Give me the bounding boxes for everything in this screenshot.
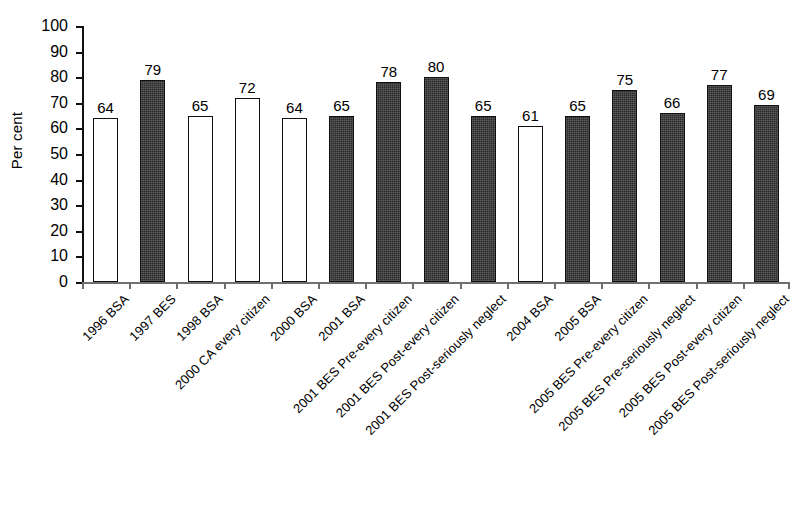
y-axis-tick-label: 0: [59, 274, 68, 290]
bar-value-label: 77: [711, 67, 728, 82]
x-axis-tick: [788, 283, 790, 289]
y-axis-tick: 90: [76, 52, 82, 54]
bar-value-label: 65: [475, 98, 492, 113]
plot-area: 1009080706050403020100 64796572646578806…: [82, 26, 790, 282]
y-axis-tick-label: 40: [50, 172, 68, 188]
x-axis-label: 2000 CA every citizen: [173, 292, 273, 392]
y-axis-tick-label: 100: [41, 18, 68, 34]
x-axis-tick: [412, 283, 414, 289]
x-axis-label: 2000 BSA: [268, 292, 320, 344]
y-axis-tick-label: 80: [50, 69, 68, 85]
bar-value-label: 75: [616, 72, 633, 87]
bar-value-label: 78: [380, 64, 397, 79]
y-axis-tick: 100: [76, 26, 82, 28]
bar: 61: [518, 126, 543, 282]
y-axis-tick-label: 50: [50, 146, 68, 162]
y-axis-tick-label: 20: [50, 223, 68, 239]
bar-chart-figure: Per cent 1009080706050403020100 64796572…: [0, 0, 809, 511]
bar-value-label: 64: [97, 100, 114, 115]
x-axis-label: 1996 BSA: [80, 292, 132, 344]
x-axis-tick: [271, 283, 273, 289]
bar-value-label: 66: [664, 95, 681, 110]
x-axis-tick: [696, 283, 698, 289]
y-axis-tick: 60: [76, 128, 82, 130]
y-axis-tick: 70: [76, 103, 82, 105]
y-axis-line: [82, 26, 84, 283]
bar: 65: [329, 116, 354, 282]
bar: 66: [660, 113, 685, 282]
x-axis-tick: [82, 283, 84, 289]
bar: 65: [471, 116, 496, 282]
bar: 72: [235, 98, 260, 282]
y-axis-title: Per cent: [8, 81, 25, 201]
x-axis-label: 1997 BES: [127, 292, 179, 344]
bar: 65: [565, 116, 590, 282]
bar-value-label: 79: [144, 62, 161, 77]
x-axis-tick: [224, 283, 226, 289]
x-axis-tick: [601, 283, 603, 289]
x-axis-label: 2004 BSA: [504, 292, 556, 344]
x-axis-tick: [507, 283, 509, 289]
bar-value-label: 80: [428, 59, 445, 74]
x-axis-tick: [743, 283, 745, 289]
bar: 80: [424, 77, 449, 282]
y-axis-tick-label: 70: [50, 95, 68, 111]
bar: 75: [612, 90, 637, 282]
bar-value-label: 61: [522, 108, 539, 123]
bar: 77: [707, 85, 732, 282]
x-axis-tick: [648, 283, 650, 289]
bar-value-label: 64: [286, 100, 303, 115]
bar: 69: [754, 105, 779, 282]
y-axis-tick: 50: [76, 154, 82, 156]
x-axis-tick: [176, 283, 178, 289]
bar-value-label: 65: [192, 98, 209, 113]
y-axis-tick: 40: [76, 180, 82, 182]
y-axis-tick: 20: [76, 231, 82, 233]
x-axis-tick: [460, 283, 462, 289]
bar-value-label: 72: [239, 80, 256, 95]
bar: 65: [188, 116, 213, 282]
bar: 64: [282, 118, 307, 282]
x-axis-line: [82, 282, 790, 284]
y-axis-tick: 30: [76, 205, 82, 207]
y-axis-tick-label: 90: [50, 44, 68, 60]
bar: 79: [140, 80, 165, 282]
bar-value-label: 65: [569, 98, 586, 113]
bar-value-label: 69: [758, 87, 775, 102]
x-axis-tick: [129, 283, 131, 289]
y-axis-tick-label: 30: [50, 197, 68, 213]
x-axis-tick: [365, 283, 367, 289]
x-axis-tick: [554, 283, 556, 289]
bar: 64: [93, 118, 118, 282]
x-axis-tick: [318, 283, 320, 289]
bar-value-label: 65: [333, 98, 350, 113]
bar: 78: [376, 82, 401, 282]
y-axis-tick: 80: [76, 77, 82, 79]
y-axis-tick-label: 10: [50, 248, 68, 264]
y-axis-tick: 10: [76, 256, 82, 258]
y-axis-tick-label: 60: [50, 120, 68, 136]
